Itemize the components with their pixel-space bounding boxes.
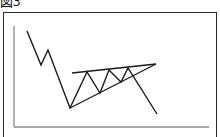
wedge-pattern-chart <box>0 0 220 137</box>
lower-trendline <box>70 64 156 108</box>
upper-trendline <box>72 64 156 73</box>
price-line <box>27 31 157 114</box>
